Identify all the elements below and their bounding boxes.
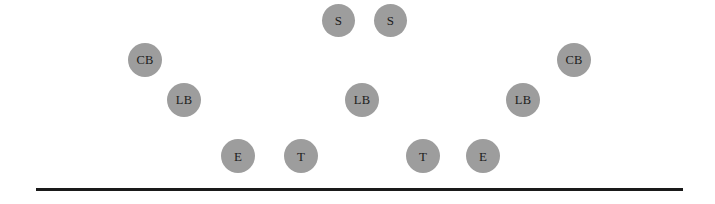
player-marker-cornerback-left[interactable]: CB [128, 43, 162, 77]
player-marker-cornerback-right[interactable]: CB [557, 43, 591, 77]
player-label-linebacker-right: LB [515, 94, 531, 107]
line-of-scrimmage [36, 188, 683, 191]
player-marker-safety-left[interactable]: S [322, 4, 355, 37]
player-label-safety-left: S [335, 14, 342, 27]
formation-diagram: SSCBCBLBLBLBETTE [0, 0, 715, 204]
player-label-end-right: E [479, 150, 487, 163]
player-label-cornerback-left: CB [136, 54, 153, 67]
player-label-safety-right: S [387, 14, 394, 27]
player-marker-linebacker-left[interactable]: LB [167, 83, 201, 117]
player-label-tackle-right: T [419, 150, 427, 163]
player-label-end-left: E [234, 150, 242, 163]
player-label-tackle-left: T [297, 150, 305, 163]
player-marker-linebacker-middle[interactable]: LB [345, 83, 379, 117]
player-label-cornerback-right: CB [565, 54, 582, 67]
player-marker-linebacker-right[interactable]: LB [506, 83, 540, 117]
player-marker-end-right[interactable]: E [466, 139, 500, 173]
player-marker-tackle-left[interactable]: T [284, 139, 318, 173]
player-label-linebacker-middle: LB [354, 94, 370, 107]
player-marker-safety-right[interactable]: S [374, 4, 407, 37]
player-marker-tackle-right[interactable]: T [406, 139, 440, 173]
player-marker-end-left[interactable]: E [221, 139, 255, 173]
player-label-linebacker-left: LB [176, 94, 192, 107]
